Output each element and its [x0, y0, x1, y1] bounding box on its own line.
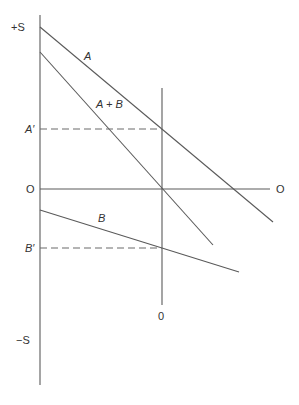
vertical-origin-label: 0	[158, 310, 164, 322]
right-origin-label: O	[276, 183, 285, 195]
line-a-plus-b-label: A + B	[95, 98, 123, 110]
left-origin-label: O	[26, 183, 35, 195]
line-a-label: A	[83, 50, 91, 62]
superposition-diagram: +S −S O O 0 A A + B B A′ B′	[0, 0, 299, 405]
b-prime-label: B′	[25, 242, 35, 254]
a-prime-label: A′	[24, 123, 35, 135]
line-a	[40, 27, 273, 222]
line-a-plus-b	[40, 52, 213, 245]
plus-s-label: +S	[11, 21, 25, 33]
minus-s-label: −S	[16, 334, 30, 346]
line-b-label: B	[98, 212, 105, 224]
